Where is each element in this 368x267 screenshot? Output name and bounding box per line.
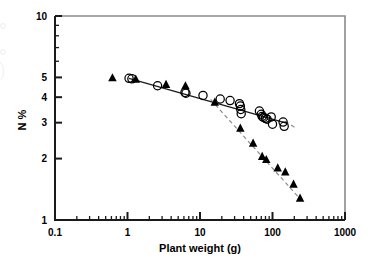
trend-lines <box>129 78 301 200</box>
data-point-triangle <box>108 73 116 81</box>
y-tick-label: 2 <box>41 153 47 164</box>
data-point-circle <box>216 95 224 103</box>
series-open-circles <box>125 74 288 130</box>
x-tick-label: 1000 <box>334 227 357 238</box>
x-tick-label: 100 <box>264 227 281 238</box>
data-point-triangle <box>281 167 289 175</box>
data-point-triangle <box>236 124 244 132</box>
x-tick-label: 1 <box>125 227 131 238</box>
y-tick-label: 10 <box>36 11 48 22</box>
data-point-triangle <box>162 80 170 88</box>
data-point-triangle <box>181 81 189 89</box>
y-tick-label: 3 <box>41 117 47 128</box>
y-tick-label: 1 <box>41 215 47 226</box>
y-axis-title: N % <box>16 109 28 130</box>
y-axis-ticks <box>55 16 62 220</box>
axes-frame <box>55 16 345 220</box>
data-point-circle <box>199 91 207 99</box>
x-axis-tick-labels: 0.11101001000 <box>48 227 357 238</box>
y-tick-label: 5 <box>41 72 47 83</box>
x-tick-label: 10 <box>194 227 206 238</box>
y-tick-label: 4 <box>41 92 47 103</box>
data-point-triangle <box>289 179 297 187</box>
data-point-circle <box>226 96 234 104</box>
y-axis-tick-labels: 1234510 <box>36 11 48 226</box>
x-axis-title: Plant weight (g) <box>159 242 241 254</box>
data-point-triangle <box>273 163 281 171</box>
plot-canvas: 0.11101001000 1234510 Plant weight (g) N… <box>0 0 368 267</box>
chart-figure: 0.11101001000 1234510 Plant weight (g) N… <box>0 0 368 267</box>
x-axis-ticks <box>55 212 345 220</box>
x-tick-label: 0.1 <box>48 227 62 238</box>
